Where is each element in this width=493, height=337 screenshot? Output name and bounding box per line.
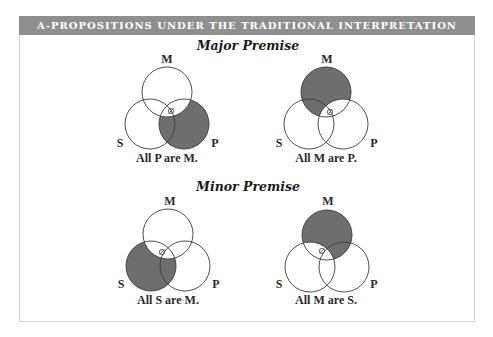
label-p: P (370, 277, 377, 291)
venn-all-p-are-m: M S P All P are M. (117, 52, 220, 165)
caption: All M are S. (295, 293, 357, 307)
venn-diagrams: Major Premise Minor Premise M S P All P … (0, 0, 493, 337)
caption: All P are M. (136, 151, 198, 165)
venn-all-m-are-p: M S P All M are P. (276, 52, 378, 165)
label-s: S (276, 277, 283, 291)
section-title-major: Major Premise (196, 38, 300, 53)
section-title-minor: Minor Premise (195, 179, 300, 194)
label-m: M (321, 52, 332, 66)
venn-all-m-are-s: M S P All M are S. (276, 194, 378, 307)
label-s: S (117, 136, 124, 150)
label-s: S (276, 136, 283, 150)
label-p: P (370, 136, 377, 150)
label-p: P (211, 136, 218, 150)
label-m: M (161, 52, 172, 66)
label-m: M (322, 194, 333, 208)
caption: All M are P. (295, 151, 356, 165)
label-m: M (164, 194, 175, 208)
caption: All S are M. (137, 293, 199, 307)
label-s: S (118, 277, 125, 291)
label-p: P (212, 277, 219, 291)
venn-all-s-are-m: M S P All S are M. (118, 194, 220, 307)
